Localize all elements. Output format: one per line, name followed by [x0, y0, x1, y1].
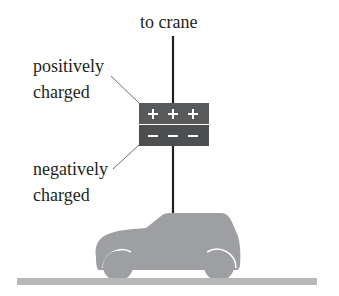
- negative-leader-line: [113, 145, 139, 169]
- ground: [17, 278, 317, 285]
- diagram-graphics: [0, 0, 339, 296]
- rear-wheel: [204, 251, 234, 281]
- positive-leader-line: [111, 76, 139, 103]
- front-wheel: [103, 251, 133, 281]
